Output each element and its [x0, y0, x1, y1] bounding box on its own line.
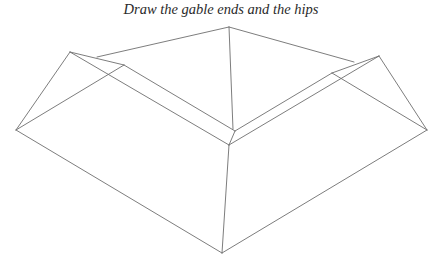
- left-gable-diagonal-line: [16, 65, 124, 130]
- right-gable-right-line: [379, 56, 427, 130]
- center-hip-line: [229, 27, 233, 129]
- right-gable-diagonal-line: [332, 73, 427, 130]
- diagram-canvas: Draw the gable ends and the hips: [0, 0, 442, 261]
- left-gable-left-line: [16, 52, 70, 130]
- left-gable-top-line: [70, 52, 124, 65]
- top-ridge-left-line: [97, 27, 229, 57]
- right-eave-line: [222, 130, 427, 253]
- left-ridge-upper-line: [124, 65, 235, 131]
- top-ridge-right-line: [229, 27, 354, 62]
- right-ridge-lower-line: [229, 56, 379, 145]
- roof-drawing: [0, 0, 442, 261]
- left-eave-line: [16, 130, 222, 253]
- right-ridge-upper-line: [235, 73, 332, 131]
- front-hip-line: [222, 145, 229, 253]
- left-ridge-lower-line: [70, 52, 229, 145]
